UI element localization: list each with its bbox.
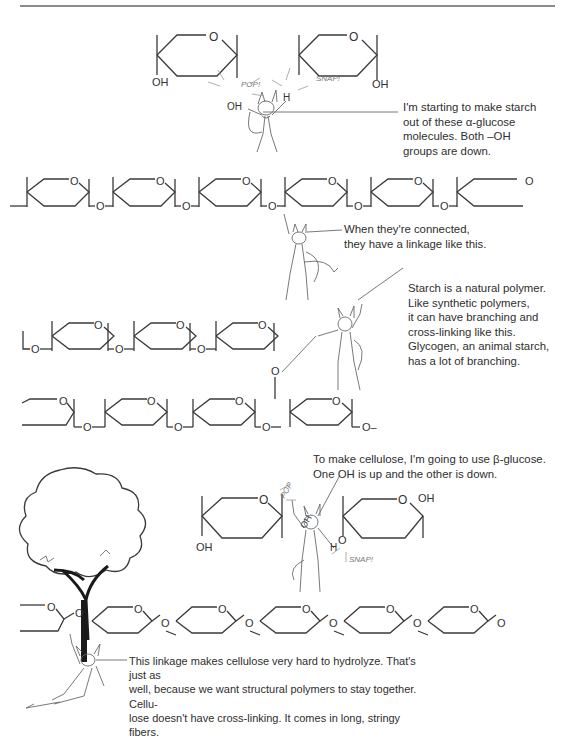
svg-text:O: O <box>338 534 347 546</box>
svg-text:O: O <box>245 617 254 629</box>
svg-text:O: O <box>174 421 183 433</box>
caption-alpha-glucose: I'm starting to make starch out of these… <box>403 100 563 158</box>
svg-text:O: O <box>31 343 40 355</box>
svg-text:O: O <box>176 319 185 331</box>
caption-linkage: When they're connected, they have a link… <box>344 222 504 251</box>
svg-text:O–: O– <box>362 421 378 433</box>
svg-text:O: O <box>414 175 423 187</box>
svg-text:O: O <box>96 200 105 212</box>
svg-text:O: O <box>75 607 84 619</box>
svg-text:O: O <box>147 395 156 407</box>
svg-text:O: O <box>94 319 103 331</box>
svg-text:O: O <box>83 421 92 433</box>
caption-leader <box>358 268 403 300</box>
svg-text:O: O <box>386 603 395 615</box>
caption-leader <box>307 230 342 232</box>
svg-text:O: O <box>440 200 449 212</box>
svg-text:OH: OH <box>372 78 389 90</box>
devil-character-icon <box>318 304 362 390</box>
svg-text:O: O <box>497 617 506 629</box>
branched-chain: O O O O O O O O O O O <box>22 319 378 433</box>
svg-text:O: O <box>197 343 206 355</box>
svg-text:O: O <box>354 200 363 212</box>
svg-text:OH: OH <box>152 76 169 88</box>
sound-effect-snap: SNAP! <box>316 74 340 83</box>
svg-text:O: O <box>268 200 277 212</box>
svg-text:O: O <box>134 603 143 615</box>
svg-text:O: O <box>70 175 79 187</box>
svg-text:O: O <box>525 175 534 187</box>
beta-glucose-right: O OH O <box>338 492 435 546</box>
cellulose-chain: O O O O O O O O O O O O <box>20 601 506 635</box>
svg-text:O: O <box>259 493 268 507</box>
svg-text:O: O <box>182 200 191 212</box>
svg-text:O: O <box>271 365 280 377</box>
svg-text:O: O <box>258 319 267 331</box>
svg-text:O: O <box>349 30 358 44</box>
caption-leader <box>282 336 316 372</box>
sound-effect-snap: SNAP! <box>349 555 373 564</box>
svg-text:OH: OH <box>196 541 213 553</box>
sound-effect-pop: POP! <box>241 80 260 89</box>
svg-text:O: O <box>209 30 218 44</box>
caption-cellulose: This linkage makes cellulose very hard t… <box>129 654 429 739</box>
svg-text:O: O <box>218 603 227 615</box>
svg-text:O: O <box>156 175 165 187</box>
alpha-chain: O O O O O O O O O O <box>10 175 534 212</box>
alpha-glucose-left: O OH <box>152 30 237 88</box>
svg-text:H: H <box>283 92 290 103</box>
svg-text:O: O <box>302 603 311 615</box>
devil-character-icon <box>26 634 104 708</box>
svg-text:OH: OH <box>298 513 313 530</box>
svg-text:O: O <box>47 601 56 613</box>
devil-character-icon: OH H <box>280 484 346 592</box>
alpha-glucose-right: O OH <box>299 30 389 90</box>
svg-text:O: O <box>161 617 170 629</box>
beta-glucose-left: O OH <box>196 493 282 553</box>
caption-beta-glucose: To make cellulose, I'm going to use β-gl… <box>313 452 573 481</box>
svg-text:O: O <box>59 395 68 407</box>
svg-text:OH: OH <box>227 101 242 112</box>
caption-branching: Starch is a natural polymer. Like synthe… <box>408 281 573 369</box>
svg-text:O: O <box>328 175 337 187</box>
svg-text:O: O <box>242 175 251 187</box>
devil-character-icon <box>284 214 338 300</box>
svg-text:O: O <box>329 617 338 629</box>
svg-text:O: O <box>398 493 407 507</box>
svg-text:OH: OH <box>418 492 435 504</box>
svg-text:O: O <box>115 343 124 355</box>
svg-text:O: O <box>470 603 479 615</box>
svg-text:O: O <box>235 395 244 407</box>
svg-text:O: O <box>332 395 341 407</box>
svg-text:O: O <box>262 421 271 433</box>
svg-text:O: O <box>413 617 422 629</box>
